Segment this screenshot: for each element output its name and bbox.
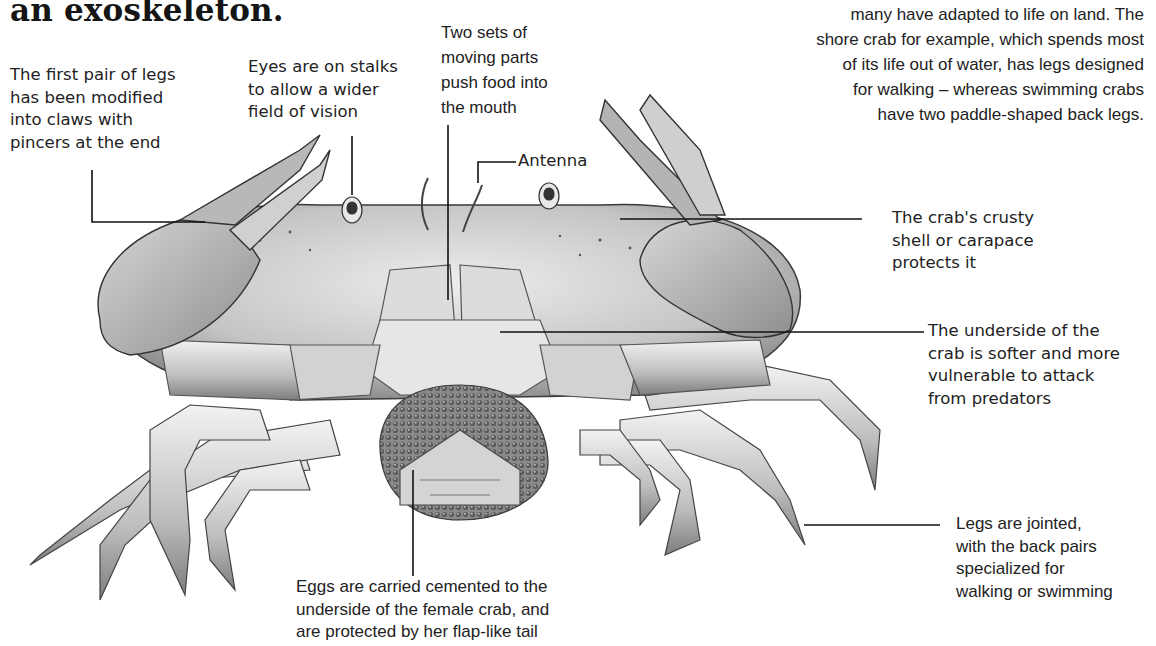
- annotation-line: moving parts: [441, 45, 548, 70]
- intro-line: shore crab for example, which spends mos…: [816, 27, 1144, 52]
- left-walking-legs: [30, 405, 340, 600]
- annotation-line: from predators: [928, 388, 1120, 411]
- annotation-legs: Legs are jointed, with the back pairs sp…: [956, 513, 1113, 603]
- annotation-line: protects it: [892, 252, 1034, 275]
- annotation-eyes: Eyes are on stalks to allow a wider fiel…: [248, 56, 398, 124]
- annotation-line: pincers at the end: [10, 132, 176, 155]
- annotation-line: vulnerable to attack: [928, 365, 1120, 388]
- annotation-line: push food into: [441, 70, 548, 95]
- annotation-claws: The first pair of legs has been modified…: [10, 64, 176, 154]
- annotation-line: Legs are jointed,: [956, 513, 1113, 536]
- annotation-line: specialized for: [956, 558, 1113, 581]
- annotation-line: crab is softer and more: [928, 343, 1120, 366]
- annotation-line: with the back pairs: [956, 536, 1113, 559]
- annotation-line: underside of the female crab, and: [296, 599, 549, 622]
- annotation-line: to allow a wider: [248, 79, 398, 102]
- page-heading: an exoskeleton.: [10, 0, 284, 28]
- annotation-line: Eggs are carried cemented to the: [296, 576, 549, 599]
- intro-line: for walking – whereas swimming crabs: [816, 77, 1144, 102]
- annotation-line: into claws with: [10, 109, 176, 132]
- intro-line: of its life out of water, has legs desig…: [816, 52, 1144, 77]
- annotation-line: Two sets of: [441, 20, 548, 45]
- annotation-underside: The underside of the crab is softer and …: [928, 320, 1120, 410]
- annotation-line: Antenna: [518, 150, 587, 173]
- annotation-line: the mouth: [441, 95, 548, 120]
- annotation-line: walking or swimming: [956, 581, 1113, 604]
- annotation-line: Eyes are on stalks: [248, 56, 398, 79]
- annotation-line: shell or carapace: [892, 230, 1034, 253]
- annotation-line: The crab's crusty: [892, 207, 1034, 230]
- annotation-antenna: Antenna: [518, 150, 587, 173]
- intro-line: many have adapted to life on land. The: [816, 2, 1144, 27]
- annotation-carapace: The crab's crusty shell or carapace prot…: [892, 207, 1034, 275]
- annotation-line: has been modified: [10, 87, 176, 110]
- annotation-line: The underside of the: [928, 320, 1120, 343]
- annotation-line: field of vision: [248, 101, 398, 124]
- annotation-line: are protected by her flap-like tail: [296, 621, 549, 644]
- intro-line: have two paddle-shaped back legs.: [816, 102, 1144, 127]
- annotation-eggs: Eggs are carried cemented to the undersi…: [296, 576, 549, 644]
- intro-paragraph: many have adapted to life on land. The s…: [816, 2, 1144, 127]
- annotation-mouthparts: Two sets of moving parts push food into …: [441, 20, 548, 120]
- annotation-line: The first pair of legs: [10, 64, 176, 87]
